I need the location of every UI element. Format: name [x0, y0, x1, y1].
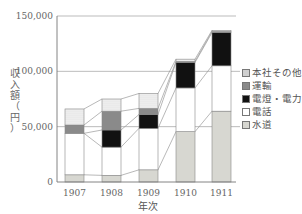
legend-item: 水道 [242, 118, 302, 131]
y-tick-label: 50,000 [22, 122, 54, 132]
y-tick-label: 100,000 [16, 66, 53, 76]
segment-電話 [212, 66, 231, 111]
segment-電話 [139, 128, 158, 170]
legend-item: 運輸 [242, 79, 302, 92]
legend-label: 本社その他 [252, 66, 302, 79]
y-axis-label-char: 円 [9, 112, 21, 123]
segment-電話 [65, 133, 84, 175]
y-tick-label: 150,000 [16, 11, 53, 21]
y-axis-label-char: 額 [9, 90, 21, 101]
bar-1911 [212, 30, 231, 182]
y-axis-label-char: 収 [9, 68, 21, 79]
segment-水道 [102, 175, 121, 182]
legend-label: 電燈・電力 [252, 92, 302, 105]
bars [65, 30, 231, 182]
x-tick-label: 1911 [210, 188, 233, 198]
segment-電燈・電力 [212, 33, 231, 66]
segment-本社その他 [212, 30, 231, 31]
x-tick-labels: 19071908190919101911 [63, 188, 233, 198]
legend-swatch-icon [242, 95, 250, 103]
legend-label: 電話 [252, 105, 272, 118]
segment-運輸 [102, 111, 121, 130]
segment-電話 [102, 147, 121, 175]
segment-電燈・電力 [139, 114, 158, 128]
segment-運輸 [139, 108, 158, 114]
segment-水道 [176, 132, 195, 182]
y-tick-labels: 150,000100,00050,0000 [16, 11, 53, 187]
y-axis-label-char: 入 [9, 79, 21, 90]
x-tick-label: 1909 [137, 188, 160, 198]
legend-swatch-icon [242, 108, 250, 116]
x-axis-label: 年次 [138, 200, 158, 212]
segment-本社その他 [65, 109, 84, 125]
legend-item: 電話 [242, 105, 302, 118]
segment-本社その他 [102, 99, 121, 111]
y-axis-label: 収入額（円） [9, 68, 21, 134]
segment-電話 [176, 88, 195, 132]
legend-swatch-icon [242, 82, 250, 90]
legend: 本社その他運輸電燈・電力電話水道 [242, 66, 302, 131]
x-tick-label: 1908 [100, 188, 123, 198]
y-axis-label-char: （ [9, 101, 21, 112]
segment-本社その他 [176, 59, 195, 61]
y-tick-label: 0 [47, 177, 53, 187]
bar-1907 [65, 109, 84, 182]
legend-swatch-icon [242, 121, 250, 129]
y-axis-label-char: ） [9, 123, 21, 134]
segment-水道 [139, 170, 158, 182]
segment-水道 [65, 175, 84, 182]
segment-運輸 [65, 125, 84, 133]
bar-1908 [102, 99, 121, 182]
segment-本社その他 [139, 93, 158, 108]
segment-水道 [212, 111, 231, 182]
segment-電燈・電力 [102, 130, 121, 147]
legend-label: 運輸 [252, 79, 272, 92]
legend-label: 水道 [252, 118, 272, 131]
bar-1909 [139, 93, 158, 182]
legend-item: 本社その他 [242, 66, 302, 79]
x-tick-label: 1907 [63, 188, 86, 198]
bar-1910 [176, 59, 195, 182]
legend-item: 電燈・電力 [242, 92, 302, 105]
legend-swatch-icon [242, 69, 250, 77]
x-tick-label: 1910 [174, 188, 197, 198]
segment-電燈・電力 [176, 62, 195, 87]
